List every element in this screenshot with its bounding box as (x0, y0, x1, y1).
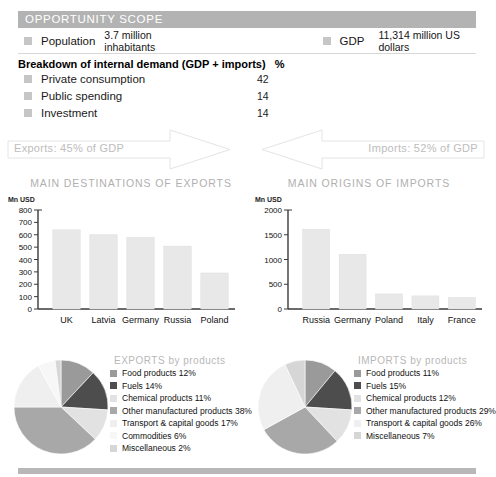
imports-axis-unit-label: Mn USD (255, 196, 282, 203)
bullet-square-icon (24, 75, 32, 83)
bar (164, 246, 191, 309)
x-axis-tick-label: Germany (122, 315, 160, 325)
legend-label: Transport & capital goods 17% (122, 418, 238, 428)
imports-barchart-title: MAIN ORIGINS OF IMPORTS (246, 177, 492, 189)
exports-share-of-gdp-label: Exports: 45% of GDP (14, 142, 124, 154)
imports-pie-chart (256, 358, 354, 456)
legend-item: Fuels 14% (110, 380, 250, 393)
exports-barchart: 0100200300400500600700800UKLatviaGermany… (6, 204, 241, 339)
breakdown-row-label: Public spending (41, 90, 257, 102)
x-axis-tick-label: Latvia (91, 315, 115, 325)
legend-label: Chemical products 12% (366, 393, 456, 403)
population-value: 3.7 million inhabitants (104, 29, 186, 53)
legend-swatch-icon (354, 382, 361, 389)
bar (201, 273, 228, 309)
breakdown-row: Investment14 (18, 104, 476, 121)
legend-label: Miscellaneous 7% (366, 431, 435, 441)
opportunity-scope-panel: OPPORTUNITY SCOPE Population 3.7 million… (18, 11, 476, 121)
y-axis-tick-label: 700 (19, 218, 33, 227)
exports-legend-list: Food products 12%Fuels 14%Chemical produ… (110, 367, 250, 455)
bullet-square-icon (24, 109, 32, 117)
bullet-square-icon (24, 37, 32, 45)
x-axis-tick-label: France (448, 315, 476, 325)
legend-swatch-icon (110, 432, 117, 439)
y-axis-tick-label: 400 (19, 256, 33, 265)
breakdown-row-value: 42 (257, 73, 269, 85)
opportunity-scope-header: OPPORTUNITY SCOPE (18, 11, 476, 28)
exports-pie-section: EXPORTS by products Food products 12%Fue… (6, 355, 246, 463)
legend-item: Other manufactured products 38% (110, 405, 250, 418)
y-axis-tick-label: 200 (19, 280, 33, 289)
bullet-square-icon (323, 37, 331, 45)
legend-swatch-icon (110, 370, 117, 377)
population-cell: Population 3.7 million inhabitants (18, 29, 187, 53)
legend-label: Miscellaneous 2% (122, 443, 191, 453)
bar (303, 229, 330, 309)
population-label: Population (41, 35, 95, 47)
breakdown-row: Private consumption42 (18, 70, 476, 87)
legend-label: Other manufactured products 38% (122, 406, 252, 416)
legend-swatch-icon (354, 395, 361, 402)
imports-barchart: 0500100015002000RussiaGermanyPolandItaly… (250, 204, 488, 339)
imports-pie-section: IMPORTS by products Food products 11%Fue… (250, 355, 490, 463)
legend-swatch-icon (354, 420, 361, 427)
bar (412, 296, 439, 309)
legend-swatch-icon (354, 370, 361, 377)
scope-summary-row: Population 3.7 million inhabitants GDP 1… (18, 30, 476, 54)
y-axis-tick-label: 300 (19, 268, 33, 277)
legend-label: Other manufactured products 29% (366, 406, 496, 416)
x-axis-tick-label: Russia (302, 315, 330, 325)
legend-swatch-icon (354, 407, 361, 414)
legend-item: Chemical products 11% (110, 392, 250, 405)
y-axis-tick-label: 500 (19, 243, 33, 252)
legend-item: Other manufactured products 29% (354, 405, 494, 418)
legend-swatch-icon (110, 395, 117, 402)
legend-label: Food products 12% (122, 368, 196, 378)
legend-item: Miscellaneous 7% (354, 430, 494, 443)
y-axis-tick-label: 2000 (264, 206, 282, 215)
bar (448, 298, 475, 309)
x-axis-tick-label: Poland (375, 315, 403, 325)
breakdown-header-row: Breakdown of internal demand (GDP + impo… (18, 58, 476, 70)
y-axis-tick-label: 1500 (264, 231, 282, 240)
exports-pie-chart (12, 358, 110, 456)
y-axis-tick-label: 100 (19, 293, 33, 302)
legend-item: Fuels 15% (354, 380, 494, 393)
legend-swatch-icon (110, 382, 117, 389)
bar (127, 237, 154, 309)
imports-pie-legend: IMPORTS by products Food products 11%Fue… (354, 355, 494, 442)
bar (339, 254, 366, 309)
x-axis-tick-label: Poland (200, 315, 228, 325)
bar (376, 294, 403, 309)
legend-item: Transport & capital goods 26% (354, 417, 494, 430)
legend-label: Fuels 14% (122, 381, 162, 391)
exports-axis-unit-label: Mn USD (8, 196, 35, 203)
x-axis-tick-label: Germany (334, 315, 372, 325)
y-axis-tick-label: 600 (19, 231, 33, 240)
exports-pie-legend: EXPORTS by products Food products 12%Fue… (110, 355, 250, 455)
exports-pie-title: EXPORTS by products (110, 355, 250, 366)
bar (90, 235, 117, 309)
y-axis-tick-label: 800 (19, 206, 33, 215)
x-axis-tick-label: Russia (164, 315, 192, 325)
y-axis-tick-label: 500 (269, 280, 283, 289)
legend-label: Commodities 6% (122, 431, 186, 441)
breakdown-row-value: 14 (257, 90, 269, 102)
breakdown-row-label: Private consumption (41, 73, 257, 85)
breakdown-title: Breakdown of internal demand (GDP + impo… (18, 58, 266, 70)
legend-label: Fuels 15% (366, 381, 406, 391)
legend-swatch-icon (110, 420, 117, 427)
legend-swatch-icon (110, 445, 117, 452)
legend-item: Commodities 6% (110, 430, 250, 443)
legend-label: Transport & capital goods 26% (366, 418, 482, 428)
legend-label: Food products 11% (366, 368, 439, 378)
breakdown-rows: Private consumption42Public spending14In… (18, 70, 476, 121)
x-axis-tick-label: UK (60, 315, 73, 325)
gdp-cell: GDP 11,314 million US dollars (317, 29, 476, 53)
legend-item: Food products 11% (354, 367, 494, 380)
y-axis-tick-label: 1000 (264, 256, 282, 265)
bar (53, 230, 80, 309)
gdp-value: 11,314 million US dollars (378, 29, 476, 53)
y-axis-tick-label: 0 (278, 305, 283, 314)
legend-item: Chemical products 12% (354, 392, 494, 405)
